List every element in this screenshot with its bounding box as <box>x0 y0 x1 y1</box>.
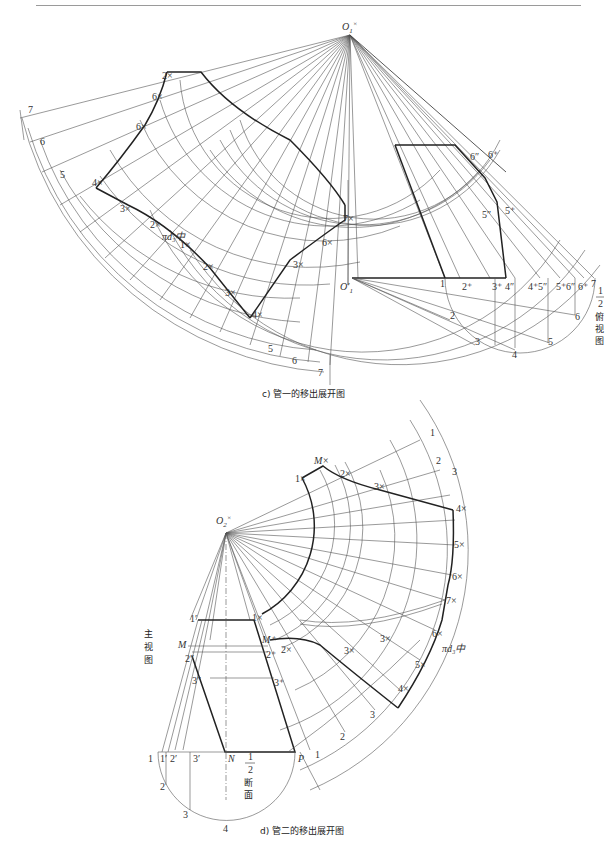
main-view-char-2: 视 <box>144 641 153 652</box>
base-3plus: 3⁺ <box>492 281 502 292</box>
half-top-view-char-2: 视 <box>595 323 604 334</box>
pt-4x: 4× <box>92 177 103 188</box>
pt-2plus: 2⁺ <box>266 649 276 660</box>
base-7: 7 <box>591 278 596 289</box>
base-4plus-5pp: 4⁺5″ <box>528 281 547 292</box>
semi-3: 3 <box>183 809 188 820</box>
base-2plus: 2⁺ <box>462 281 472 292</box>
half-top-view-1: 1 <box>598 285 603 296</box>
base-1prime: 1′ <box>160 753 167 764</box>
pt-3plus: 3⁺ <box>274 677 284 688</box>
pt-6x-c: 6× <box>322 237 333 248</box>
pt-3x: 3× <box>120 203 131 214</box>
pt-1x-main: 1× <box>252 612 263 623</box>
pt-3pp: 3″ <box>192 675 201 686</box>
main-view-char-3: 图 <box>144 655 153 665</box>
pt-6x-a: 6× <box>152 91 163 102</box>
d-4x: 4× <box>456 503 467 514</box>
figure-c-labels: O1× 7 6 5 2× 6× 6× 4× 3× 2× πd₃中 1× 2× 3… <box>28 20 604 399</box>
pt-6plus: 6⁺ <box>488 149 498 160</box>
d-pi-d3: πd₃中 <box>442 643 466 654</box>
half-4: 4 <box>512 349 517 360</box>
d-2-arc: 2 <box>340 731 345 742</box>
outer-2: 2 <box>436 455 441 466</box>
d-3x-b: 3× <box>344 645 355 656</box>
half-top-view <box>348 180 595 353</box>
pt-Mplus: M⁺ <box>261 634 276 645</box>
pt-6x-b: 6× <box>136 121 147 132</box>
base-3prime: 3′ <box>193 753 200 764</box>
d-3x-mid: 3× <box>380 633 391 644</box>
dimension-arrow-left <box>20 110 24 140</box>
arc-label-7: 7 <box>28 104 33 115</box>
pt-4x-b: 4× <box>252 309 263 320</box>
d-6x-b: 6× <box>432 628 443 639</box>
base-4pp: 4″ <box>505 281 514 292</box>
arc-label-5: 5 <box>60 169 65 180</box>
pt-5pp: 5″ <box>482 209 491 220</box>
pt-3x-b: 3× <box>225 287 236 298</box>
outer-3: 3 <box>452 466 457 477</box>
half-2: 2 <box>450 310 455 321</box>
pt-M: M <box>177 639 187 650</box>
pt-3x-c: 3× <box>293 259 304 270</box>
half-top-view-2: 2 <box>598 298 603 309</box>
arc-label-5-bottom: 5 <box>268 343 273 354</box>
half-top-view-char-3: 图 <box>595 336 604 346</box>
d-5x-b: 5× <box>415 659 426 670</box>
outer-1: 1 <box>430 427 435 438</box>
base-1: 1 <box>440 278 445 289</box>
section-1: 1 <box>248 751 253 762</box>
base-2prime: 2′ <box>170 753 177 764</box>
semi-4: 4 <box>223 823 228 834</box>
d-1x: 1× <box>295 473 306 484</box>
pt-2x-b: 2× <box>150 219 161 230</box>
half-6: 6 <box>575 311 580 322</box>
base-N: N <box>227 753 236 764</box>
half-top-view-char-1: 俯 <box>595 311 604 322</box>
d-2x: 2× <box>340 468 351 479</box>
section-2: 2 <box>248 764 253 775</box>
unfolded-outline-d <box>270 466 453 708</box>
d-3x: 3× <box>374 481 385 492</box>
pt-7x: 7× <box>343 213 354 224</box>
section-char-1: 断 <box>244 777 253 788</box>
base-5plus-6pp: 5⁺6″ <box>556 281 575 292</box>
semi-2: 2 <box>160 781 165 792</box>
figure-d-labels: O2× 1 2 3 1× M× 2× 3× 4× 5× 6× 7× 6× πd₃… <box>144 427 467 836</box>
d-4x-b: 4× <box>398 683 409 694</box>
section-char-2: 面 <box>244 790 253 800</box>
d-6x: 6× <box>452 571 463 582</box>
caption-c: c) 管一的移出展开图 <box>262 388 345 399</box>
apex-o1x-label: O1× <box>342 20 357 35</box>
d-7x: 7× <box>446 595 457 606</box>
apex-o2x-label: O2× <box>216 514 231 529</box>
arc-label-6-bottom: 6 <box>292 355 297 366</box>
half-5: 5 <box>548 336 553 347</box>
d-5x: 5× <box>454 539 465 550</box>
origin-o1prime: O′1 <box>340 281 353 295</box>
d-Mx: M× <box>313 455 329 466</box>
pt-6pp: 6″ <box>470 151 479 162</box>
pt-1x: 1× <box>180 239 191 250</box>
half-3: 3 <box>475 336 480 347</box>
pt-2pp: 2″ <box>185 653 194 664</box>
pt-2x: 2× <box>162 70 173 81</box>
base-6plus: 6⁺ <box>578 281 588 292</box>
d-3-arc: 3 <box>370 709 375 720</box>
d-2x-b: 2× <box>281 644 292 655</box>
pt-5plus: 5⁺ <box>505 205 515 216</box>
arc-label-7-bottom: 7 <box>318 367 323 378</box>
caption-d: d) 管二的移出展开图 <box>260 825 344 836</box>
pt-1prime: 1′ <box>190 613 197 624</box>
radial-lines-left <box>20 35 358 365</box>
pt-2x-c: 2× <box>203 261 214 272</box>
base-1-d: 1 <box>148 753 153 764</box>
base-P: P <box>297 753 304 764</box>
arc-label-6: 6 <box>40 136 45 147</box>
main-view-char-1: 主 <box>144 628 153 639</box>
technical-drawing: O1× 7 6 5 2× 6× 6× 4× 3× 2× πd₃中 1× 2× 3… <box>0 0 616 843</box>
d-1-arc: 1 <box>315 749 320 760</box>
